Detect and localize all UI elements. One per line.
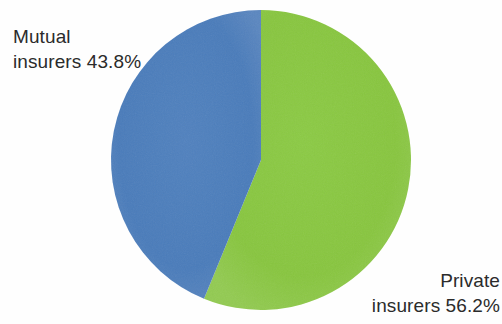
pie-label-mutual-line-2: insurers 43.8% (13, 49, 141, 74)
pie-chart: Mutual insurers 43.8% Private insurers 5… (0, 0, 502, 324)
pie-label-mutual-line-1: Mutual (13, 24, 141, 49)
pie-label-private-line-1: Private (372, 268, 500, 293)
pie-label-private-insurers: Private insurers 56.2% (372, 268, 500, 318)
pie-label-mutual-insurers: Mutual insurers 43.8% (13, 24, 141, 74)
pie-label-private-line-2: insurers 56.2% (372, 293, 500, 318)
